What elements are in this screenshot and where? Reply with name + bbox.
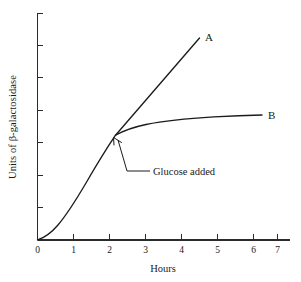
x-tick-label-7: 7	[275, 245, 280, 255]
x-tick-label-6: 6	[251, 245, 256, 255]
curve-series-b	[116, 115, 263, 135]
beta-galactosidase-line-chart: 0 1 2 3 4 5 6 7 A B Glucose added Hours …	[0, 0, 301, 282]
annotation-leader-line	[118, 140, 150, 171]
x-tick-labels: 0 1 2 3 4 5 6 7	[35, 245, 280, 255]
series-label-a: A	[205, 31, 213, 43]
x-tick-label-4: 4	[179, 245, 184, 255]
x-tick-label-0: 0	[35, 245, 40, 255]
curve-series-a	[38, 38, 200, 240]
axes-group	[38, 13, 291, 240]
x-axis-ticks	[38, 234, 278, 240]
x-tick-label-3: 3	[143, 245, 148, 255]
x-axis-title: Hours	[150, 263, 176, 274]
y-axis-title: Units of β-galactosidase	[7, 75, 18, 179]
series-label-b: B	[268, 109, 275, 121]
annotation-arrow-head	[114, 138, 122, 146]
x-tick-label-1: 1	[71, 245, 76, 255]
x-tick-label-2: 2	[107, 245, 112, 255]
chart-figure: 0 1 2 3 4 5 6 7 A B Glucose added Hours …	[0, 0, 301, 282]
x-tick-label-5: 5	[215, 245, 220, 255]
annotation-label-glucose-added: Glucose added	[153, 166, 216, 177]
y-axis-ticks	[38, 13, 44, 208]
glucose-added-annotation: Glucose added	[114, 138, 216, 178]
